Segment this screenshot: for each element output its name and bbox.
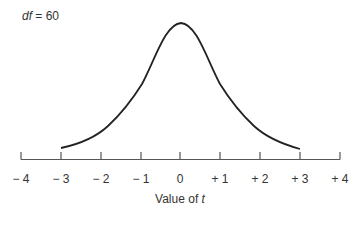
x-axis-label: Value of t — [155, 192, 205, 206]
x-tick-label: + 4 — [331, 172, 348, 186]
x-tick-label: 0 — [177, 172, 184, 186]
x-tick-label: + 1 — [211, 172, 228, 186]
x-axis-label-variable: t — [202, 192, 205, 206]
x-tick-label: + 3 — [291, 172, 308, 186]
x-tick-label: − 3 — [52, 172, 69, 186]
x-tick-label: − 1 — [132, 172, 149, 186]
x-tick-label: − 2 — [92, 172, 109, 186]
x-axis — [21, 152, 340, 160]
x-tick-label: + 2 — [251, 172, 268, 186]
x-tick-label: − 4 — [12, 172, 29, 186]
x-axis-label-text: Value of — [155, 192, 201, 206]
t-distribution-curve — [61, 23, 300, 149]
